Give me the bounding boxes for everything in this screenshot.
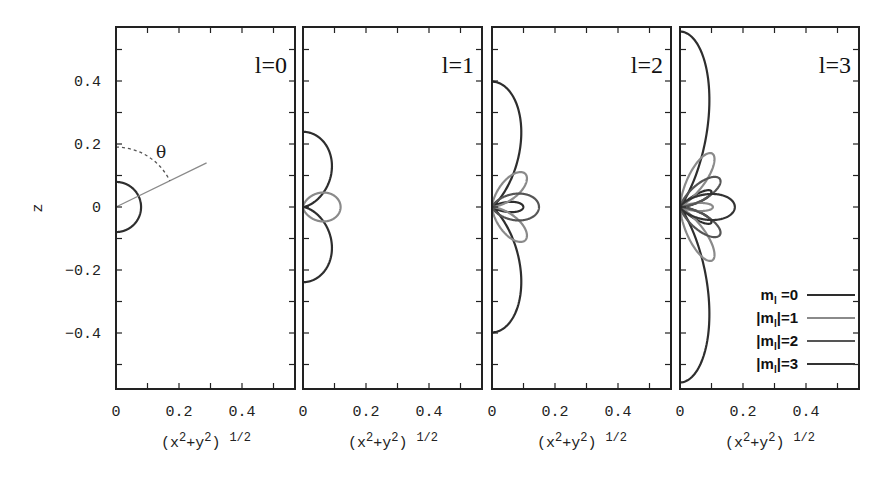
x-tick-label: 0.4 [792,404,819,421]
panel-title: l=1 [442,52,474,78]
plot-frame [492,27,671,389]
legend-label: |ml|=3 [756,355,798,375]
y-tick-label: 0 [92,200,101,217]
x-tick-label: 0 [487,404,496,421]
panels: θ00.20.4(x2+y2) 1/2l=000.20.4(x2+y2) 1/2… [65,27,859,452]
panel-title: l=2 [631,52,663,78]
x-axis-label: (x2+y2) 1/2 [161,431,251,452]
panel-title: l=3 [819,52,851,78]
plot-frame [116,27,295,389]
y-tick-label: −0.4 [65,326,101,343]
x-tick-label: 0.2 [541,404,568,421]
panel-l2: 00.20.4(x2+y2) 1/2l=2 [487,27,671,452]
legend-label: ml =0 [761,286,798,306]
legend-label: |ml|=1 [756,309,798,329]
x-axis-label: (x2+y2) 1/2 [537,431,627,452]
y-tick-label: 0.2 [74,137,101,154]
curve-l3-m2 [680,177,721,237]
legend-item: |ml|=2 [756,332,855,352]
plot-frame [303,27,482,389]
x-tick-label: 0 [675,404,684,421]
curves [492,82,539,333]
x-axis-label: (x2+y2) 1/2 [725,431,815,452]
panel-title: l=0 [255,52,287,78]
x-tick-label: 0.2 [729,404,756,421]
y-tick-label: −0.2 [65,263,101,280]
theta-symbol: θ [156,142,166,162]
x-tick-label: 0.2 [352,404,379,421]
legend-item: |ml|=1 [756,309,855,329]
panel-l3: 00.20.4(x2+y2) 1/2l=3 [675,27,859,452]
y-tick-label: 0.4 [74,74,101,91]
legend-label: |ml|=2 [756,332,798,352]
x-tick-label: 0.4 [228,404,255,421]
curves [680,32,735,383]
spherical-harmonics-figure: θ00.20.4(x2+y2) 1/2l=000.20.4(x2+y2) 1/2… [0,0,889,481]
x-axis-label: (x2+y2) 1/2 [348,431,438,452]
legend-item: ml =0 [761,286,855,306]
x-tick-label: 0 [111,404,120,421]
x-tick-label: 0.2 [165,404,192,421]
x-tick-label: 0 [298,404,307,421]
panel-l1: 00.20.4(x2+y2) 1/2l=1 [298,27,482,452]
panel-l0: θ00.20.4(x2+y2) 1/2l=0 [111,27,295,452]
x-tick-label: 0.4 [415,404,442,421]
legend-item: |ml|=3 [756,355,855,375]
legend: ml =0|ml|=1|ml|=2|ml|=3 [756,286,855,375]
x-tick-label: 0.4 [604,404,631,421]
z-axis-label: z [30,203,47,212]
